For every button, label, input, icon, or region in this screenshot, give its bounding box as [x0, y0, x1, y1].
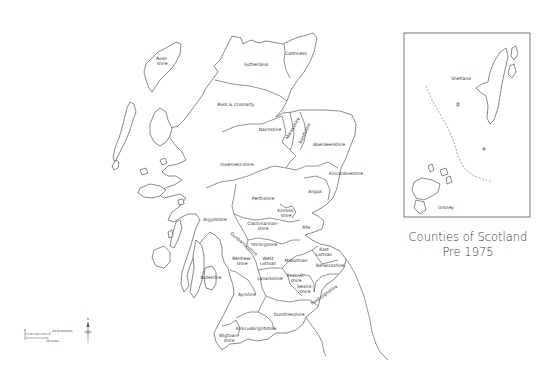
scale-bar: 0 40 kilometres 20 miles: [24, 328, 73, 343]
scotland-mainland: [158, 33, 356, 350]
county-label-argyllshire: Argyllshire: [203, 217, 227, 222]
county-label-kincardineshire: Kincardineshire: [329, 171, 363, 176]
county-label-stirlingshire: Stirlingshire: [251, 242, 278, 247]
fair-isle: [457, 103, 459, 106]
england-border-south: [306, 317, 326, 356]
scale-mi-label: 20 miles: [46, 339, 59, 343]
england-border-coast: [346, 259, 388, 360]
north-arrow-icon: N: [84, 317, 92, 343]
scotland-counties-map: Ross-shireSutherlandCaithnessRoss & Crom…: [0, 0, 545, 383]
county-label-ross-cromarty: Ross & Cromarty: [218, 102, 255, 107]
county-label-caithness: Caithness: [285, 51, 307, 56]
map-title: Counties of Scotland Pre 1975: [393, 230, 543, 259]
inset-label-shetland: Shetland: [451, 76, 471, 81]
outer-hebrides-uists: [113, 102, 136, 162]
small-isle-2: [140, 168, 148, 175]
map-title-line1: Counties of Scotland: [393, 230, 543, 245]
county-label-angus: Angus: [308, 189, 322, 194]
county-label-midlothian: Midlothian: [285, 258, 308, 263]
isle-of-islay: [152, 246, 170, 268]
county-label-lanarkshire: Lanarkshire: [257, 276, 283, 281]
county-label-aberdeenshire: Aberdeenshire: [313, 142, 345, 147]
county-label-berwickshire: Berwickshire: [316, 263, 344, 268]
inset-orkney-shetland: ShetlandOrkney: [404, 33, 530, 217]
outer-hebrides-lewis: [144, 42, 181, 92]
inset-label-orkney: Orkney: [438, 205, 454, 210]
barra: [112, 160, 119, 170]
foula: [483, 148, 485, 150]
isle-of-skye: [150, 108, 172, 146]
county-label-buteshire: Buteshire: [201, 275, 222, 280]
compass-north-label: N: [87, 317, 89, 321]
county-label-kirkcudbrightshire: Kirkcudbrightshire: [236, 326, 277, 331]
scale-km-label: 40 kilometres: [52, 329, 73, 333]
county-label-nairnshire: Nairnshire: [259, 127, 282, 132]
county-label-inverness-shire: Inverness-shire: [220, 162, 254, 167]
county-label-perthshire: Perthshire: [252, 196, 275, 201]
county-label-dumfriesshire: Dumfriesshire: [274, 312, 305, 317]
small-isle-1: [160, 158, 167, 165]
map-title-line2: Pre 1975: [393, 245, 543, 260]
county-label-fife: Fife: [302, 225, 310, 230]
small-isle-4: [178, 199, 184, 205]
county-label-ross-shire: Ross-shire: [156, 56, 168, 66]
county-label-sutherland: Sutherland: [244, 62, 268, 67]
county-label-ayrshire: Ayrshire: [238, 292, 256, 297]
scale-zero: 0: [24, 328, 26, 332]
